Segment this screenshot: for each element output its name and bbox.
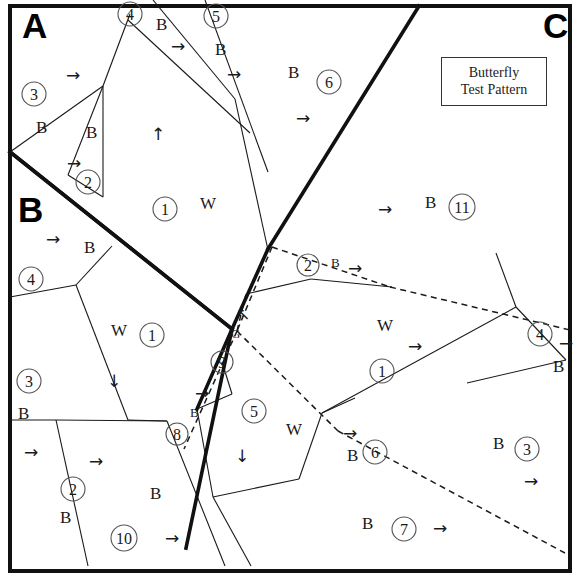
region-number: 1: [378, 363, 386, 380]
region-marker: 5: [204, 4, 228, 28]
fill-code-w: W: [200, 194, 217, 213]
arrow-right-icon: →: [66, 65, 80, 85]
arrow-right-icon: →: [343, 423, 357, 443]
region-number: 11: [454, 199, 469, 216]
region-number: 9: [218, 354, 226, 371]
zone-b-divider: [10, 152, 232, 329]
fill-code-b: B: [86, 123, 97, 142]
ln-c6: [467, 360, 566, 383]
dash-right-edge: [390, 287, 570, 330]
region-marker: 3: [515, 437, 539, 461]
region-marker: 4: [118, 2, 142, 26]
arrow-right-icon: →: [89, 451, 103, 471]
region-marker: 3: [22, 82, 46, 106]
fill-code-b: B: [84, 238, 95, 257]
butterfly-test-pattern: BBBBBWBBWBBBGBBWWBBBB →→→→→↑→→↓→→→↖→→→↓→…: [0, 0, 579, 587]
region-number: 2: [84, 174, 92, 191]
arrow-right-icon: →: [171, 36, 185, 56]
fill-code-b: B: [347, 446, 358, 465]
region-marker: 2: [61, 477, 85, 501]
region-number: 3: [523, 441, 531, 458]
arrow-down-icon: ↓: [235, 446, 249, 466]
region-marker: 4: [528, 322, 552, 346]
fill-code-b: B: [362, 514, 373, 533]
ln-a7: [235, 99, 268, 250]
region-number: 5: [212, 8, 220, 25]
region-marker: 2: [297, 254, 319, 276]
dashed-lines: [184, 247, 570, 553]
ln-c2: [311, 279, 392, 287]
region-number: 1: [161, 201, 169, 218]
fill-code-b: B: [493, 434, 504, 453]
arrow-upleft-icon: ↖: [236, 304, 250, 324]
fill-code-b: B: [190, 405, 199, 420]
zone-c-label: C: [543, 6, 568, 45]
arrow-right-icon: →: [195, 383, 209, 403]
legend-line-1: Butterfly: [469, 65, 520, 82]
zone-a-label: A: [22, 6, 47, 45]
region-marker: 4: [19, 267, 43, 291]
region-number: 3: [30, 86, 38, 103]
region-number: 4: [536, 326, 544, 343]
arrow-right-icon: →: [67, 153, 81, 173]
fill-code-b: B: [18, 404, 29, 423]
ln-c8: [322, 398, 355, 413]
arrow-right-icon: →: [227, 64, 241, 84]
region-marker: 8: [166, 423, 188, 445]
arrow-down-icon: ↓: [107, 371, 121, 391]
fill-code-w: W: [286, 420, 303, 439]
region-number: 4: [27, 271, 35, 288]
ln-c3: [322, 307, 516, 413]
fill-code-w: W: [377, 316, 394, 335]
ln-c7: [299, 413, 322, 479]
region-marker: 11: [449, 194, 475, 220]
fill-code-b: B: [553, 357, 564, 376]
butterfly-upper-right: [268, 6, 419, 249]
fill-code-b: B: [288, 63, 299, 82]
ln-b1: [10, 285, 76, 297]
region-number: 10: [116, 530, 132, 547]
region-marker: 5: [242, 399, 266, 423]
ln-a6: [205, 0, 268, 172]
region-number: 1: [148, 327, 156, 344]
arrow-right-icon: →: [433, 518, 447, 538]
region-number: 4: [126, 6, 134, 23]
arrow-right-icon: →: [24, 442, 38, 462]
region-number: 3: [25, 373, 33, 390]
fill-code-b: B: [331, 255, 340, 270]
region-marker: 1: [140, 323, 164, 347]
arrow-right-icon: →: [296, 108, 310, 128]
arrow-right-icon: →: [559, 333, 573, 353]
region-marker: 3: [17, 369, 41, 393]
legend-box: Butterfly Test Pattern: [441, 57, 547, 106]
direction-arrows: →→→→→↑→→↓→→→↖→→→↓→→→→: [24, 36, 573, 548]
zone-b-label: B: [18, 190, 43, 229]
fill-code-b: B: [215, 40, 226, 59]
region-marker: 6: [317, 70, 341, 94]
region-marker: 7: [392, 517, 416, 541]
arrow-right-icon: →: [46, 229, 60, 249]
arrow-up-icon: ↑: [151, 124, 165, 144]
legend-line-2: Test Pattern: [461, 82, 527, 99]
fill-code-b: B: [36, 118, 47, 137]
fill-code-b: B: [60, 508, 71, 527]
region-number: 8: [173, 426, 181, 443]
ln-b2: [76, 285, 128, 420]
ln-c10: [213, 497, 251, 566]
region-marker: 10: [111, 525, 137, 551]
fill-code-b: B: [150, 484, 161, 503]
region-number: 7: [400, 521, 408, 538]
region-number: 5: [250, 403, 258, 420]
arrow-right-icon: →: [524, 471, 538, 491]
fill-code-g: G: [231, 326, 240, 341]
fill-code-b: B: [156, 15, 167, 34]
region-number: 2: [304, 257, 312, 274]
region-number: 6: [325, 74, 333, 91]
arrow-right-icon: →: [165, 528, 179, 548]
fill-code-b: B: [425, 193, 436, 212]
ln-c9: [213, 479, 299, 497]
arrow-right-icon: →: [348, 258, 362, 278]
region-marker: 9: [211, 351, 233, 373]
ln-a1: [10, 86, 103, 152]
region-number: 2: [69, 481, 77, 498]
